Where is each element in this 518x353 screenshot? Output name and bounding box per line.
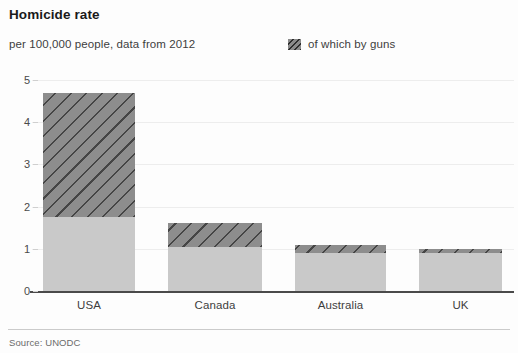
y-tick-mark-4 — [33, 122, 38, 123]
bar-uk[interactable] — [419, 249, 502, 291]
y-axis-tick-label: 0 — [14, 285, 30, 297]
x-axis-label-australia: Australia — [295, 299, 386, 311]
y-axis-tick-label: 3 — [14, 158, 30, 170]
bar-usa[interactable] — [43, 93, 135, 291]
bar-segment-guns — [295, 245, 386, 253]
bar-australia[interactable] — [295, 245, 386, 291]
bar-segment-guns — [43, 93, 135, 217]
bar-segment-base — [168, 247, 262, 291]
gridline-5 — [32, 80, 514, 81]
bar-segment-base — [43, 217, 135, 291]
x-axis-label-uk: UK — [419, 299, 502, 311]
x-axis-label-usa: USA — [43, 299, 135, 311]
x-axis-label-canada: Canada — [168, 299, 262, 311]
plot-area: 012345USACanadaAustraliaUK — [0, 0, 518, 353]
y-tick-mark-3 — [33, 164, 38, 165]
source-note: Source: UNODC — [9, 337, 81, 348]
y-axis-tick-label: 1 — [14, 243, 30, 255]
chart-page: Homicide rate per 100,000 people, data f… — [0, 0, 518, 353]
bar-canada[interactable] — [168, 223, 262, 291]
y-axis-tick-label: 4 — [14, 116, 30, 128]
bar-segment-base — [419, 253, 502, 291]
bar-segment-base — [295, 253, 386, 291]
footer-divider — [8, 329, 510, 330]
x-axis-line — [30, 291, 514, 293]
y-axis-tick-label: 2 — [14, 201, 30, 213]
y-tick-mark-5 — [33, 80, 38, 81]
y-axis-tick-label: 5 — [14, 74, 30, 86]
y-tick-mark-2 — [33, 207, 38, 208]
y-tick-mark-1 — [33, 249, 38, 250]
bar-segment-guns — [168, 223, 262, 246]
y-tick-mark-0 — [33, 291, 38, 292]
